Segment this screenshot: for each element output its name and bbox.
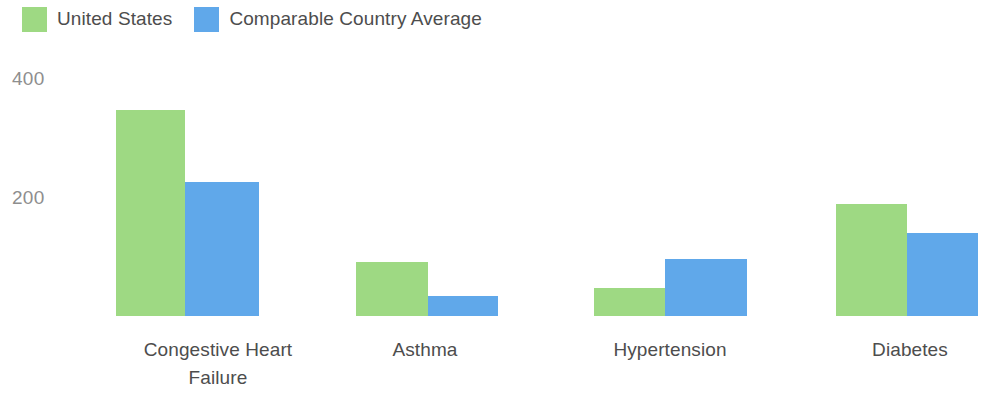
x-axis-label-line1: Asthma bbox=[325, 336, 525, 364]
bar-united-states-asthma[interactable] bbox=[356, 262, 428, 316]
bar-comparable-country-average-hypertension[interactable] bbox=[665, 259, 747, 316]
bar-comparable-country-average-diabetes[interactable] bbox=[907, 233, 978, 316]
x-axis-label-line2: Failure bbox=[60, 364, 376, 392]
bar-united-states-congestive-heart-failure[interactable] bbox=[116, 110, 185, 316]
bar-comparable-country-average-congestive-heart-failure[interactable] bbox=[185, 182, 259, 316]
x-axis-label-line1: Hypertension bbox=[570, 336, 770, 364]
bar-comparable-country-average-asthma[interactable] bbox=[428, 296, 498, 316]
x-axis-label-diabetes: Diabetes bbox=[810, 336, 982, 364]
x-axis-label-line1: Diabetes bbox=[810, 336, 982, 364]
x-axis-label-asthma: Asthma bbox=[325, 336, 525, 364]
bar-united-states-hypertension[interactable] bbox=[594, 288, 665, 316]
bar-united-states-diabetes[interactable] bbox=[836, 204, 907, 316]
x-axis-label-hypertension: Hypertension bbox=[570, 336, 770, 364]
